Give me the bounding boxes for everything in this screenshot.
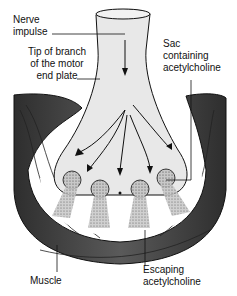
label-line: acetylcholine: [143, 276, 201, 288]
label-line: end plate: [28, 70, 86, 82]
label-sac: Sac containing acetylcholine: [163, 38, 221, 74]
label-line: containing: [163, 50, 221, 62]
label-nerve-impulse: Nerve impulse: [13, 14, 47, 38]
label-line: Escaping: [143, 264, 201, 276]
label-line: Nerve: [13, 14, 47, 26]
label-muscle: Muscle: [30, 275, 62, 287]
label-line: of the motor: [28, 58, 86, 70]
label-line: impulse: [13, 26, 47, 38]
label-tip-of-branch: Tip of branch of the motor end plate: [28, 46, 86, 82]
label-line: acetylcholine: [163, 62, 221, 74]
label-line: Tip of branch: [28, 46, 86, 58]
label-line: Sac: [163, 38, 221, 50]
label-escaping-acetylcholine: Escaping acetylcholine: [143, 264, 201, 288]
label-line: Muscle: [30, 275, 62, 287]
